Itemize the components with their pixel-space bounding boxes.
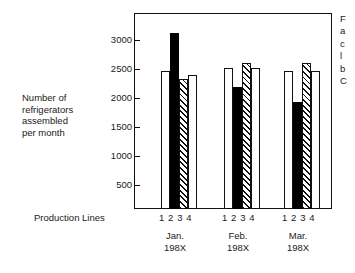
x-axis-labels: Production Lines 1 2 3 4 1 2 3 4 1 2 3 4… (0, 0, 355, 273)
side-note-line-5: b (340, 63, 355, 75)
group-caption-mar: Mar. 198X (273, 230, 323, 253)
x-axis-label: Production Lines (34, 212, 105, 223)
side-note-line-2: a (340, 25, 355, 37)
side-note-clipped: F a c l b C (340, 13, 355, 87)
group-caption-feb: Feb. 198X (213, 230, 263, 253)
group-caption-feb-month: Feb. (213, 230, 263, 242)
group-caption-jan: Jan. 198X (150, 230, 200, 253)
group-caption-jan-month: Jan. (150, 230, 200, 242)
group-tick-numbers-feb: 1 2 3 4 (222, 212, 255, 223)
group-tick-numbers-mar: 1 2 3 4 (282, 212, 315, 223)
group-caption-jan-year: 198X (150, 242, 200, 254)
group-tick-numbers-jan: 1 2 3 4 (159, 212, 192, 223)
group-caption-feb-year: 198X (213, 242, 263, 254)
side-note-line-6: C (340, 75, 355, 87)
group-caption-mar-year: 198X (273, 242, 323, 254)
side-note-line-1: F (340, 13, 355, 25)
side-note-line-3: c (340, 38, 355, 50)
group-caption-mar-month: Mar. (273, 230, 323, 242)
bar-chart-figure: Number of refrigerators assembled per mo… (0, 0, 355, 273)
side-note-line-4: l (340, 50, 355, 62)
